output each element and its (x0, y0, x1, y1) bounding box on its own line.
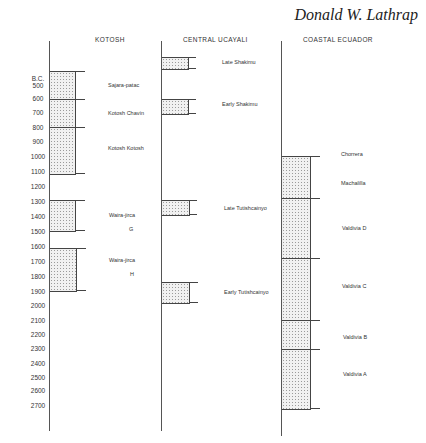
year-tick: 1800 (26, 273, 50, 280)
phase-box-late-tutishcainyo (162, 200, 190, 216)
phase-box-waira-jirca-h (50, 248, 77, 292)
tick-line (310, 258, 320, 259)
phase-box-sajara-patac (50, 71, 76, 101)
column-header-kotosh: KOTOSH (95, 36, 125, 43)
tick-line (189, 282, 198, 283)
tick-line (75, 200, 85, 201)
column-header-central-ucayali: CENTRAL UCAYALI (183, 36, 248, 43)
tick-line (310, 198, 320, 199)
year-tick: 1200 (26, 183, 50, 190)
year-tick: 1700 (26, 258, 50, 265)
year-tick: 900 (26, 138, 50, 145)
tick-line (188, 113, 196, 114)
phase-label: H (130, 271, 134, 277)
tick-line (75, 99, 85, 100)
year-tick: 1900 (26, 288, 50, 295)
year-tick: 2000 (26, 302, 50, 309)
tick-line (310, 408, 320, 409)
phase-box-valdivia-b (282, 320, 311, 351)
phase-box-kotosh-chavin (50, 99, 76, 129)
year-tick: 1100 (26, 168, 50, 175)
phase-label: Valdivia C (342, 283, 366, 289)
tick-line (310, 349, 320, 350)
tick-line (75, 230, 85, 231)
year-tick: 1600 (26, 243, 50, 250)
year-tick: 2500 (26, 374, 50, 381)
phase-label: G (129, 226, 133, 232)
year-tick: 1500 (26, 228, 50, 235)
tick-line (188, 99, 196, 100)
year-tick: 800 (26, 124, 50, 131)
phase-box-waira-jirca-g (50, 200, 76, 232)
tick-line (189, 214, 197, 215)
phase-box-early-tutishcainyo (162, 282, 190, 304)
phase-label: Late Shakimu (222, 59, 256, 65)
author-name: Donald W. Lathrap (295, 6, 418, 24)
phase-label: Early Shakimu (222, 101, 257, 107)
year-tick: 1400 (26, 213, 50, 220)
tick-line (189, 200, 197, 201)
year-tick: 600 (26, 95, 50, 102)
phase-label: Machalilla (341, 180, 365, 186)
year-tick: 1300 (26, 198, 50, 205)
year-tick: 2300 (26, 345, 50, 352)
phase-label: Valdivia D (342, 225, 366, 231)
tick-line (76, 248, 86, 249)
tick-line (189, 302, 198, 303)
tick-line (75, 127, 85, 128)
phase-box-valdivia-d (282, 198, 311, 260)
phase-box-late-shakimu (162, 57, 189, 70)
year-tick: 2100 (26, 317, 50, 324)
year-tick: 2400 (26, 360, 50, 367)
year-tick: 2700 (26, 402, 50, 409)
phase-label: Valdivia B (343, 334, 367, 340)
phase-box-valdivia-a (282, 349, 311, 410)
tick-line (188, 68, 196, 69)
tick-line (310, 156, 320, 157)
phase-box-early-shakimu (162, 99, 189, 115)
phase-label: Waira-jirca (109, 257, 135, 263)
year-tick: 2600 (26, 387, 50, 394)
phase-box-kotosh-kotosh (50, 127, 76, 175)
phase-label: Sajara-patac (108, 82, 139, 88)
tick-line (75, 173, 85, 174)
column-header-coastal-ecuador: COASTAL ECUADOR (303, 36, 373, 43)
phase-label: Valdivia A (343, 371, 367, 377)
phase-box-machalilla (282, 156, 311, 200)
phase-label: Kotosh Kotosh (108, 145, 144, 151)
year-tick: 2200 (26, 331, 50, 338)
tick-line (75, 71, 85, 72)
era-label: B.C. (26, 75, 50, 82)
tick-line (76, 290, 86, 291)
year-tick: 1000 (26, 153, 50, 160)
phase-label: Early Tutishcainyo (224, 289, 269, 295)
year-tick: 700 (26, 109, 50, 116)
phase-label: Kotosh Chavín (108, 110, 144, 116)
tick-line (310, 320, 320, 321)
tick-line (188, 57, 196, 58)
year-tick: 500 (26, 82, 50, 89)
phase-label: Waira-jirca (109, 212, 135, 218)
phase-box-valdivia-c (282, 258, 311, 322)
phase-label: Chorrera (341, 151, 363, 157)
phase-label: Late Tutishcainyo (224, 205, 267, 211)
